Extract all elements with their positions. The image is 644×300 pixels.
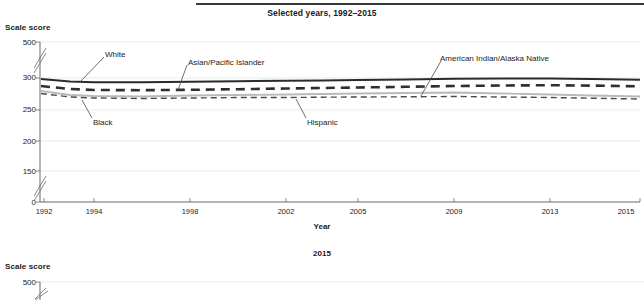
chart-plot-area	[0, 0, 644, 300]
series-line-american-indian	[41, 91, 640, 97]
x-axis-panel1	[40, 198, 640, 202]
panel2-axes	[35, 282, 644, 300]
gridlines-panel1	[40, 42, 640, 171]
y-axis-panel1	[34, 42, 46, 202]
series-line-asian-pacific-islander	[41, 85, 640, 90]
series-line-white	[41, 78, 640, 82]
